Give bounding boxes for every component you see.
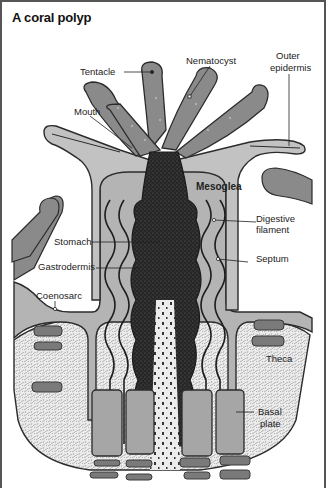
label-basal-plate-2: plate	[260, 418, 281, 429]
label-gastrodermis: Gastrodermis	[38, 261, 95, 272]
label-septum: Septum	[256, 253, 289, 264]
label-mesoglea: Mesoglea	[196, 181, 242, 192]
coral-polyp-diagram: Tentacle Nematocyst Outer epidermis Mout…	[0, 0, 326, 490]
label-mouth: Mouth	[74, 106, 100, 117]
label-digestive-filament-1: Digestive	[256, 213, 295, 224]
label-coenosarc: Coenosarc	[36, 290, 82, 301]
neighbour-polyp-right	[262, 168, 312, 204]
label-tentacle: Tentacle	[80, 66, 115, 77]
label-outer-epidermis-2: epidermis	[270, 62, 311, 73]
label-theca: Theca	[266, 353, 293, 364]
label-outer-epidermis-1: Outer	[276, 50, 300, 61]
label-digestive-filament-2: filament	[256, 224, 290, 235]
label-basal-plate-1: Basal	[258, 406, 282, 417]
label-nematocyst: Nematocyst	[186, 55, 237, 66]
label-stomach: Stomach	[54, 236, 92, 247]
